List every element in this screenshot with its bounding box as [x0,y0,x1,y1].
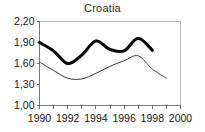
x-tick-label: 1998 [141,112,165,124]
chart-plot: 1,001,301,601,902,20 1990199219941996199… [0,0,205,132]
x-tick-label: 1994 [84,112,108,124]
axis-tick-marks [37,22,181,109]
x-tick-label: 1996 [112,112,136,124]
chart-container: Croatia 1,001,301,601,902,20 19901992199… [0,0,205,132]
x-tick-label: 1992 [56,112,80,124]
x-tick-label: 1990 [28,112,52,124]
series-line-thin [40,56,167,80]
x-axis-tick-labels: 199019921994199619982000 [28,112,193,124]
series-line-thick [40,38,153,63]
x-tick-label: 2000 [169,112,193,124]
y-tick-label: 1,00 [14,99,35,111]
y-tick-label: 2,20 [14,15,35,27]
y-tick-label: 1,90 [14,36,35,48]
y-tick-label: 1,30 [14,78,35,90]
y-tick-label: 1,60 [14,57,35,69]
y-axis-tick-labels: 1,001,301,601,902,20 [14,15,35,111]
